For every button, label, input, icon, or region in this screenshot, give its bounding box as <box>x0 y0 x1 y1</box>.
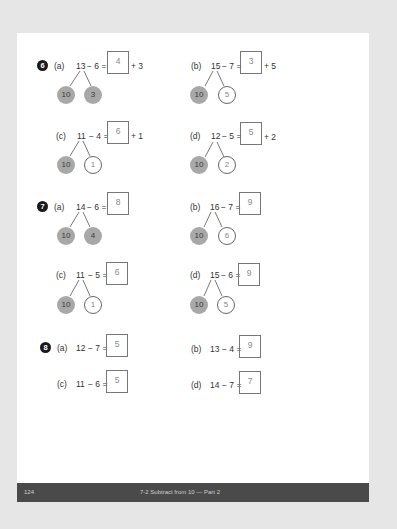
page-footer-bar: 124 7-2 Subtract from 10 — Part 2 <box>17 483 369 502</box>
equation-first: 14 <box>210 380 219 390</box>
equation-rest: − 6 = <box>88 379 107 389</box>
answer-box[interactable]: 5 <box>106 370 128 393</box>
bond-circle-ten: 10 <box>190 296 208 314</box>
item-label: (a) <box>57 343 67 353</box>
equation-rest: − 7 = <box>88 343 107 353</box>
answer-box[interactable]: 9 <box>239 335 261 358</box>
equation-first: 11 <box>76 379 85 389</box>
answer-box[interactable]: 5 <box>106 334 128 357</box>
item-label: (d) <box>191 380 201 390</box>
item-label: (b) <box>191 344 201 354</box>
item-label: (c) <box>57 379 67 389</box>
equation-first: 12 <box>76 343 85 353</box>
answer-box[interactable]: 7 <box>239 371 261 394</box>
equation-first: 13 <box>210 344 219 354</box>
lesson-title: 7-2 Subtract from 10 — Part 2 <box>140 489 220 495</box>
page-number: 124 <box>24 489 34 495</box>
number-bond-lines <box>0 0 397 529</box>
bond-circle-ones: 5 <box>217 296 235 314</box>
problem-number-badge: 8 <box>40 342 51 353</box>
